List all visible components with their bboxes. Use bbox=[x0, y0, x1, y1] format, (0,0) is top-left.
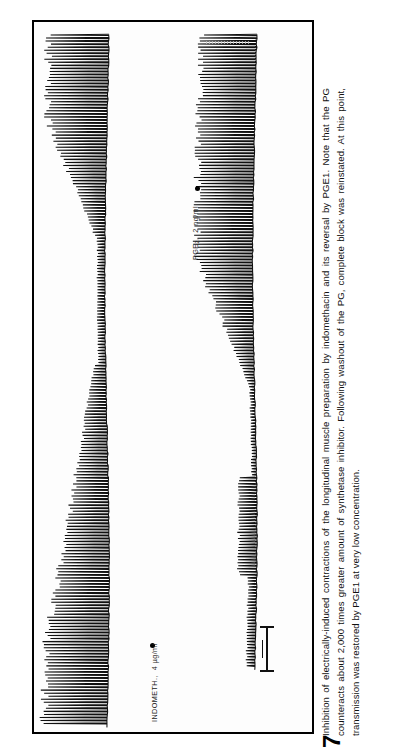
pge2-upper-event-marker bbox=[195, 186, 200, 191]
wash-tick-marker bbox=[262, 640, 263, 658]
figure-plate: INDOMETH., 4 µg/ml PGE2, 2 ng/ml PGE2, n… bbox=[0, 0, 406, 756]
label-pge2-upper-dose: 2 ng/ml bbox=[191, 206, 200, 233]
label-indomethacin: INDOMETH., 4 µg/ml bbox=[150, 643, 159, 722]
label-indomethacin-drug: INDOMETH., bbox=[150, 675, 159, 722]
upper-trace bbox=[40, 34, 110, 727]
label-pge2-upper-subscript: 2 bbox=[194, 240, 200, 243]
recording-panel: INDOMETH., 4 µg/ml PGE2, 2 ng/ml PGE2, n… bbox=[32, 20, 314, 734]
label-pge2-upper: PGE2, 2 ng/ml bbox=[191, 206, 200, 260]
label-indomethacin-dose: 4 µg/ml bbox=[150, 643, 159, 670]
wash-bracket-marker bbox=[266, 626, 268, 672]
figure-caption: Inhibition of electrically-induced contr… bbox=[318, 88, 364, 736]
lower-trace bbox=[193, 34, 258, 669]
trace-path bbox=[193, 34, 258, 669]
figure-number: 7 bbox=[320, 735, 344, 748]
figure-caption-text: Inhibition of electrically-induced contr… bbox=[320, 88, 361, 736]
label-pge2-upper-drug: PGE bbox=[191, 243, 200, 260]
scan-artifact bbox=[206, 41, 250, 44]
trace-path bbox=[40, 34, 110, 727]
